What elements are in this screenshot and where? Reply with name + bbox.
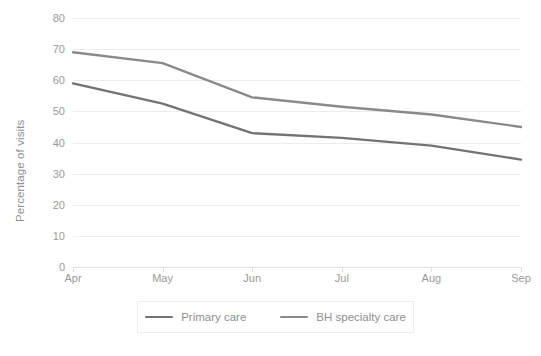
chart-legend: Primary care BH specialty care bbox=[137, 301, 414, 333]
y-axis-tick-label: 10 bbox=[37, 230, 65, 242]
series-line bbox=[73, 52, 521, 127]
legend-swatch-icon bbox=[280, 316, 308, 319]
x-axis-tick-label: Jun bbox=[222, 272, 282, 284]
y-axis-tick-label: 70 bbox=[37, 43, 65, 55]
legend-item-label: Primary care bbox=[181, 311, 246, 323]
x-axis-tick-label: Aug bbox=[401, 272, 461, 284]
x-axis-tick-mark bbox=[342, 267, 343, 272]
legend-item-label: BH specialty care bbox=[316, 311, 405, 323]
y-axis-tick-label: 30 bbox=[37, 168, 65, 180]
x-axis-tick-label: Sep bbox=[491, 272, 541, 284]
x-axis-tick-mark bbox=[252, 267, 253, 272]
y-axis-tick-label: 60 bbox=[37, 74, 65, 86]
y-axis-tick-label: 40 bbox=[37, 137, 65, 149]
legend-item-primary-care[interactable]: Primary care bbox=[145, 311, 246, 323]
series-line bbox=[73, 83, 521, 159]
x-axis-tick-label: Apr bbox=[43, 272, 103, 284]
legend-item-bh-specialty-care[interactable]: BH specialty care bbox=[280, 311, 405, 323]
plot-area bbox=[73, 18, 521, 267]
x-axis-tick-label: Jul bbox=[312, 272, 372, 284]
line-chart: Percentage of visits 01020304050607080 A… bbox=[0, 0, 541, 356]
x-axis-tick-label: May bbox=[133, 272, 193, 284]
x-axis-tick-labels: AprMayJunJulAugSep bbox=[73, 272, 521, 290]
legend-swatch-icon bbox=[145, 316, 173, 319]
x-axis-tick-mark bbox=[431, 267, 432, 272]
x-axis-tick-mark bbox=[163, 267, 164, 272]
y-axis-tick-labels: 01020304050607080 bbox=[35, 18, 65, 267]
y-axis-tick-label: 80 bbox=[37, 12, 65, 24]
x-axis-tick-mark bbox=[73, 267, 74, 272]
gridline bbox=[73, 267, 521, 268]
y-axis-tick-label: 20 bbox=[37, 199, 65, 211]
y-axis-tick-label: 50 bbox=[37, 105, 65, 117]
series-lines bbox=[73, 18, 521, 267]
x-axis-tick-mark bbox=[521, 267, 522, 272]
y-axis-title: Percentage of visits bbox=[14, 0, 34, 222]
